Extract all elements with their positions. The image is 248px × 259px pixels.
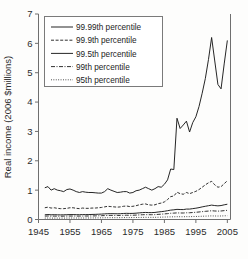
y-tick-label: 2 xyxy=(27,155,32,166)
legend-label: 99.5th percentile xyxy=(76,50,137,59)
y-tick-label: 4 xyxy=(27,96,32,107)
x-axis-tick-labels: 1945195519651975198519952005 xyxy=(28,226,238,237)
y-tick-label: 3 xyxy=(27,126,32,137)
x-tick-label: 1985 xyxy=(154,226,175,237)
legend-label: 99th percentile xyxy=(76,63,130,72)
chart-legend: 99.99th percentile99.9th percentile99.5t… xyxy=(45,17,163,87)
x-tick-label: 1995 xyxy=(185,226,206,237)
x-tick-label: 1945 xyxy=(28,226,49,237)
x-tick-label: 1955 xyxy=(59,226,80,237)
y-tick-label: 6 xyxy=(27,38,32,49)
y-tick-label: 0 xyxy=(27,214,32,225)
y-tick-label: 1 xyxy=(27,185,32,196)
legend-label: 95th percentile xyxy=(76,76,130,85)
y-axis-title: Real income (2006 $millions) xyxy=(2,56,13,179)
series-line xyxy=(45,181,228,209)
y-tick-label: 7 xyxy=(27,8,32,19)
legend-label: 99.9th percentile xyxy=(76,36,137,45)
x-axis-ticks xyxy=(39,220,228,224)
chart-figure: 01234567 1945195519651975198519952005 Re… xyxy=(0,0,248,259)
income-percentiles-line-chart: 01234567 1945195519651975198519952005 Re… xyxy=(0,0,248,259)
y-axis-tick-labels: 01234567 xyxy=(27,8,32,225)
y-axis-ticks xyxy=(35,14,39,220)
legend-label: 99.99th percentile xyxy=(76,23,142,32)
x-tick-label: 2005 xyxy=(217,226,238,237)
x-tick-label: 1965 xyxy=(91,226,112,237)
x-tick-label: 1975 xyxy=(122,226,143,237)
y-tick-label: 5 xyxy=(27,67,32,78)
